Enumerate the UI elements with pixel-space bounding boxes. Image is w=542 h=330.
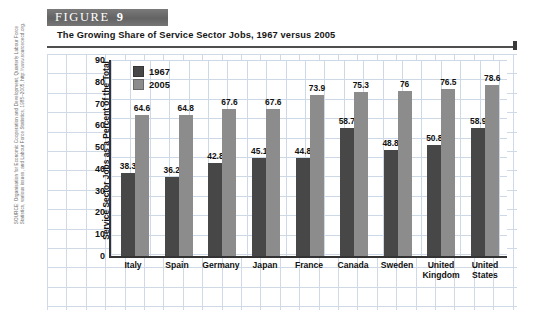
source-note: SOURCE: Organisation for Economic Cooper… <box>14 12 26 224</box>
bar-group-sweden: 48.876 <box>376 60 420 256</box>
bar-value-label: 58.9 <box>470 116 486 126</box>
bar-group-canada: 58.775.3 <box>332 60 376 256</box>
bar-united-states-2005[interactable]: 78.6 <box>485 85 499 256</box>
bar-canada-2005[interactable]: 75.3 <box>354 92 368 256</box>
bar-value-label: 64.6 <box>134 103 150 113</box>
legend-item-1967[interactable]: 1967 <box>133 66 170 77</box>
bar-value-label: 76 <box>400 79 409 89</box>
bar-value-label: 75.3 <box>353 80 369 90</box>
bar-value-label: 76.5 <box>440 77 456 87</box>
bar-groups: 38.364.636.264.842.867.645.167.644.873.9… <box>113 60 507 256</box>
bar-value-label: 45.1 <box>251 146 267 156</box>
x-axis-label-canada: Canada <box>331 260 375 281</box>
bar-value-label: 36.2 <box>164 165 180 175</box>
bar-value-label: 73.9 <box>309 83 325 93</box>
bar-canada-1967[interactable]: 58.7 <box>340 128 354 256</box>
x-axis-label-spain: Spain <box>155 260 199 281</box>
x-axis-label-italy: Italy <box>111 260 155 281</box>
y-axis-tick-60: 60 <box>81 120 105 130</box>
bar-germany-1967[interactable]: 42.8 <box>208 163 222 256</box>
x-axis-label-united-kingdom: United Kingdom <box>419 260 463 281</box>
legend: 19672005 <box>133 66 170 92</box>
y-axis-tick-0: 0 <box>81 251 105 261</box>
bar-value-label: 67.6 <box>221 97 237 107</box>
y-axis-tick-30: 30 <box>81 186 105 196</box>
bar-italy-1967[interactable]: 38.3 <box>121 173 135 256</box>
chart: Service Sector Jobs as a Percent of the … <box>47 54 517 310</box>
figure-caption: The Growing Share of Service Sector Jobs… <box>57 30 507 40</box>
bar-united-kingdom-1967[interactable]: 50.8 <box>427 145 441 256</box>
x-axis-label-united-states: United States <box>463 260 507 281</box>
bar-value-label: 78.6 <box>484 73 500 83</box>
bar-value-label: 67.6 <box>265 97 281 107</box>
x-axis-label-sweden: Sweden <box>375 260 419 281</box>
y-axis-tick-90: 90 <box>81 55 105 65</box>
bar-group-united-kingdom: 50.876.5 <box>419 60 463 256</box>
bar-group-germany: 42.867.6 <box>201 60 245 256</box>
figure-page: SOURCE: Organisation for Economic Cooper… <box>0 0 542 330</box>
y-axis-tick-40: 40 <box>81 164 105 174</box>
y-axis-tick-50: 50 <box>81 142 105 152</box>
x-axis-category-labels: ItalySpainGermanyJapanFranceCanadaSweden… <box>111 260 507 281</box>
y-axis-tick-20: 20 <box>81 207 105 217</box>
y-axis-tick-labels: 9080706050403020100 <box>81 60 105 256</box>
figure-number: 9 <box>117 10 123 25</box>
bar-france-2005[interactable]: 73.9 <box>310 95 324 256</box>
plot-area: 19672005 38.364.636.264.842.867.645.167.… <box>109 60 507 258</box>
bar-value-label: 58.7 <box>339 116 355 126</box>
legend-swatch-1967 <box>133 66 144 77</box>
bar-value-label: 44.8 <box>295 146 311 156</box>
caption-rule <box>47 46 517 48</box>
x-axis-label-germany: Germany <box>199 260 243 281</box>
bar-value-label: 42.8 <box>207 151 223 161</box>
bar-group-united-states: 58.978.6 <box>463 60 507 256</box>
legend-swatch-2005 <box>133 79 144 90</box>
legend-label-1967: 1967 <box>149 66 170 77</box>
x-axis-label-japan: Japan <box>243 260 287 281</box>
legend-label-2005: 2005 <box>149 79 170 90</box>
bar-group-japan: 45.167.6 <box>244 60 288 256</box>
bar-spain-2005[interactable]: 64.8 <box>179 115 193 256</box>
y-axis-tick-10: 10 <box>81 229 105 239</box>
bar-france-1967[interactable]: 44.8 <box>296 158 310 256</box>
bar-sweden-1967[interactable]: 48.8 <box>384 150 398 256</box>
figure-label-word: FIGURE <box>55 10 110 25</box>
bar-united-states-1967[interactable]: 58.9 <box>471 128 485 256</box>
bar-japan-2005[interactable]: 67.6 <box>266 109 280 256</box>
bar-value-label: 64.8 <box>178 103 194 113</box>
legend-item-2005[interactable]: 2005 <box>133 79 170 90</box>
bar-value-label: 50.8 <box>426 133 442 143</box>
y-axis-tick-80: 80 <box>81 77 105 87</box>
bar-sweden-2005[interactable]: 76 <box>398 91 412 257</box>
bar-germany-2005[interactable]: 67.6 <box>222 109 236 256</box>
bar-united-kingdom-2005[interactable]: 76.5 <box>441 89 455 256</box>
bar-spain-1967[interactable]: 36.2 <box>165 177 179 256</box>
bar-group-france: 44.873.9 <box>288 60 332 256</box>
figure-banner: FIGURE 9 <box>47 9 168 26</box>
bar-japan-1967[interactable]: 45.1 <box>252 158 266 256</box>
y-axis-tick-70: 70 <box>81 99 105 109</box>
bar-value-label: 48.8 <box>382 138 398 148</box>
caption-rule-endcap <box>513 41 517 50</box>
x-axis-label-france: France <box>287 260 331 281</box>
bar-italy-2005[interactable]: 64.6 <box>135 115 149 256</box>
bar-value-label: 38.3 <box>120 161 136 171</box>
